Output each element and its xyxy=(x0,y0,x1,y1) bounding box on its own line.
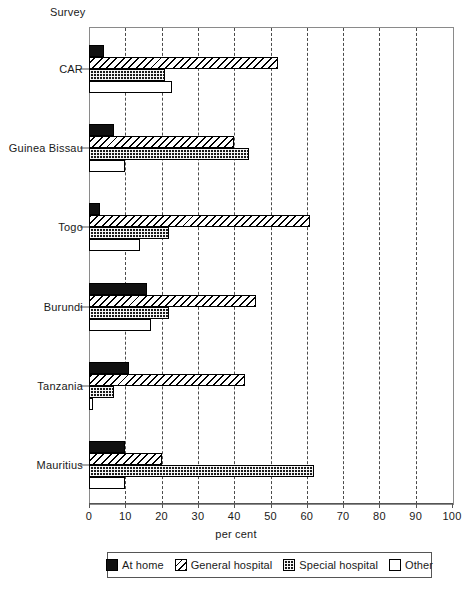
x-axis-tick-label: 90 xyxy=(409,510,422,522)
bar xyxy=(89,203,100,215)
legend-label: At home xyxy=(122,559,164,571)
category-axis-labels: CARGuinea BissauTogoBurundiTanzaniaMauri… xyxy=(0,0,83,591)
bar xyxy=(89,307,169,319)
x-axis-tick-label: 70 xyxy=(337,510,350,522)
category-axis-label: CAR xyxy=(59,63,83,75)
plot-area xyxy=(89,27,454,505)
legend-label: General hospital xyxy=(191,559,273,571)
bar xyxy=(89,160,125,172)
x-axis-tick-label: 40 xyxy=(228,510,241,522)
bar xyxy=(89,57,278,69)
x-axis-tick-label: 10 xyxy=(119,510,132,522)
bar xyxy=(89,148,249,160)
bar xyxy=(89,215,310,227)
x-axis-tick xyxy=(343,503,344,508)
x-axis-tick xyxy=(416,503,417,508)
x-axis-tick xyxy=(125,503,126,508)
x-axis-tick xyxy=(198,503,199,508)
legend-label: Other xyxy=(405,559,433,571)
legend-item[interactable]: Special hospital xyxy=(283,559,378,571)
gridline xyxy=(125,28,126,504)
x-axis-tick-label: 50 xyxy=(264,510,277,522)
chart-legend: At homeGeneral hospitalSpecial hospitalO… xyxy=(107,552,432,578)
x-axis-tick xyxy=(307,503,308,508)
bar xyxy=(89,398,93,410)
gridline xyxy=(198,28,199,504)
category-axis-label: Guinea Bissau xyxy=(9,142,83,154)
x-axis-tick xyxy=(379,503,380,508)
gridline xyxy=(307,28,308,504)
bar xyxy=(89,453,162,465)
bar xyxy=(89,295,256,307)
bar xyxy=(89,477,125,489)
x-axis-tick xyxy=(271,503,272,508)
bar xyxy=(89,81,172,93)
bar xyxy=(89,362,129,374)
legend-item[interactable]: General hospital xyxy=(175,559,273,571)
x-axis-tick xyxy=(89,503,90,508)
x-axis-tick-label: 60 xyxy=(300,510,313,522)
gridline xyxy=(271,28,272,504)
legend-swatch-other xyxy=(389,559,401,571)
x-axis-tick xyxy=(162,503,163,508)
x-axis-tick xyxy=(452,503,453,508)
bar xyxy=(89,124,114,136)
bar xyxy=(89,45,104,57)
gridline xyxy=(379,28,380,504)
bar xyxy=(89,227,169,239)
category-axis-label: Togo xyxy=(58,221,83,233)
x-axis-title: per cent xyxy=(0,528,472,540)
category-axis-label: Tanzania xyxy=(37,380,83,392)
legend-item[interactable]: At home xyxy=(106,559,164,571)
bar xyxy=(89,239,140,251)
category-axis-label: Burundi xyxy=(44,301,83,313)
bar xyxy=(89,283,147,295)
x-axis-tick-label: 100 xyxy=(443,510,462,522)
bar xyxy=(89,136,234,148)
legend-swatch-general xyxy=(175,559,187,571)
gridline xyxy=(162,28,163,504)
gridline xyxy=(234,28,235,504)
x-axis-tick-label: 20 xyxy=(155,510,168,522)
bar xyxy=(89,69,165,81)
gridline xyxy=(416,28,417,504)
x-axis-tick-label: 0 xyxy=(86,510,92,522)
bar xyxy=(89,386,114,398)
legend-item[interactable]: Other xyxy=(389,559,433,571)
bar xyxy=(89,374,245,386)
x-axis-tick xyxy=(234,503,235,508)
bar xyxy=(89,465,314,477)
chart-root: Survey CARGuinea BissauTogoBurundiTanzan… xyxy=(0,0,472,591)
gridline xyxy=(343,28,344,504)
x-axis-tick-label: 30 xyxy=(192,510,205,522)
bar xyxy=(89,441,125,453)
legend-swatch-athome xyxy=(106,559,118,571)
category-axis-label: Mauritius xyxy=(37,459,83,471)
x-axis-tick-label: 80 xyxy=(373,510,386,522)
legend-label: Special hospital xyxy=(299,559,378,571)
bar xyxy=(89,319,151,331)
legend-swatch-special xyxy=(283,559,295,571)
